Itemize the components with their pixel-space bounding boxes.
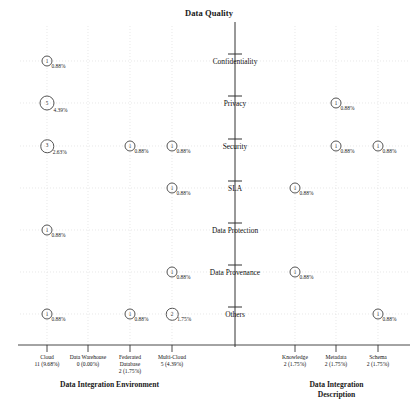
data-point-percent-label: 0.88% xyxy=(383,148,397,154)
x-axis-tick-name: Schema xyxy=(367,354,389,361)
data-point-percent-label: 0.88% xyxy=(52,316,66,322)
data-point-percent-label: 0.88% xyxy=(300,274,314,280)
x-axis-tick-label: Cloud11 (9.68%) xyxy=(35,354,60,368)
y-axis-label: Others xyxy=(225,310,245,319)
x-axis-tick-value: 2 (1.75%) xyxy=(325,361,347,368)
x-axis-tick-name: Federated Database xyxy=(109,354,151,368)
x-axis-tick-name: Data Warehouse xyxy=(70,354,107,361)
x-axis-tick-value: 0 (0.00%) xyxy=(70,361,107,368)
x-axis-tick-label: Data Warehouse0 (0.00%) xyxy=(70,354,107,368)
x-axis-tick-name: Cloud xyxy=(35,354,60,361)
axis-ticks xyxy=(47,54,378,352)
y-axis-label: Privacy xyxy=(224,99,247,108)
y-axis-label: Security xyxy=(223,142,248,151)
x-axis-tick-value: 2 (1.75%) xyxy=(367,361,389,368)
x-axis-tick-label: Schema2 (1.75%) xyxy=(367,354,389,368)
data-point-percent-label: 0.88% xyxy=(383,316,397,322)
data-point-marker: 5 xyxy=(40,96,55,111)
x-axis-tick-label: Federated Database2 (1.75%) xyxy=(109,354,151,375)
x-axis-tick-label: Knowledge2 (1.75%) xyxy=(282,354,308,368)
y-axis-label: SLA xyxy=(228,184,242,193)
data-point-percent-label: 0.88% xyxy=(135,148,149,154)
x-axis-tick-value: 2 (1.75%) xyxy=(282,361,308,368)
x-axis-tick-value: 11 (9.68%) xyxy=(35,361,60,368)
x-axis-tick-name: Metadata xyxy=(325,354,347,361)
x-axis-tick-value: 5 (4.39%) xyxy=(158,361,186,368)
data-point-percent-label: 2.63% xyxy=(53,149,67,155)
x-axis-group-title: Data Integration Description xyxy=(296,380,378,400)
y-axis-label: Data Provenance xyxy=(210,268,260,277)
x-axis-tick-label: Multi-Cloud5 (4.39%) xyxy=(158,354,186,368)
data-point-marker: 3 xyxy=(40,139,54,153)
x-axis-tick-name: Knowledge xyxy=(282,354,308,361)
x-axis-tick-label: Metadata2 (1.75%) xyxy=(325,354,347,368)
x-axis-tick-name: Multi-Cloud xyxy=(158,354,186,361)
data-point-percent-label: 0.88% xyxy=(341,105,355,111)
data-point-percent-label: 0.88% xyxy=(177,148,191,154)
vertical-gridlines xyxy=(47,26,378,345)
data-point-percent-label: 4.39% xyxy=(54,107,68,113)
y-axis-label: Confidentiality xyxy=(213,57,258,66)
x-axis-group-title: Data Integration Environment xyxy=(60,380,159,390)
x-axis-tick-value: 2 (1.75%) xyxy=(109,368,151,375)
data-point-percent-label: 0.88% xyxy=(52,63,66,69)
chart-container: Data Quality ConfidentialityPrivacySecur… xyxy=(0,0,418,414)
data-point-percent-label: 1.75% xyxy=(177,316,191,322)
axis-lines xyxy=(18,22,410,347)
data-point-percent-label: 0.88% xyxy=(135,316,149,322)
chart-title: Data Quality xyxy=(0,8,418,18)
data-point-percent-label: 0.88% xyxy=(177,274,191,280)
data-point-percent-label: 0.88% xyxy=(300,190,314,196)
data-point-percent-label: 0.88% xyxy=(52,232,66,238)
y-axis-label: Data Protection xyxy=(212,226,258,235)
data-point-percent-label: 0.88% xyxy=(177,190,191,196)
data-point-percent-label: 0.88% xyxy=(341,148,355,154)
